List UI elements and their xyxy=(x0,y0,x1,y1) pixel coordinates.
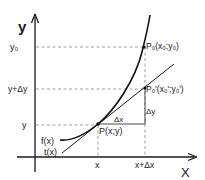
f-label: f(x) xyxy=(41,136,54,146)
dy-label: Δy xyxy=(146,107,155,116)
y-plus-dy-tick-label: y+Δy xyxy=(8,84,28,94)
point-P0-prime-label: P₀'(x₀';y₀') xyxy=(146,84,184,94)
dx-label: Δx xyxy=(114,115,123,124)
y-tick-label: y xyxy=(22,120,27,130)
x-axis-label: X xyxy=(181,165,190,180)
point-P0-label: P₀(x₀;y₀) xyxy=(146,41,179,51)
function-curve xyxy=(60,15,150,140)
t-label: t(x) xyxy=(44,147,57,157)
y-axis-label: y xyxy=(18,18,27,35)
derivative-tangent-diagram: y X y₀ y+Δy y x x+Δx P(x;y) P₀(x₀;y₀) P₀… xyxy=(0,0,205,180)
x-tick-label: x xyxy=(95,160,100,170)
x-plus-dx-tick-label: x+Δx xyxy=(135,160,155,170)
point-P-label: P(x;y) xyxy=(99,126,123,136)
tangent-line xyxy=(62,64,174,153)
y0-tick-label: y₀ xyxy=(10,42,19,52)
